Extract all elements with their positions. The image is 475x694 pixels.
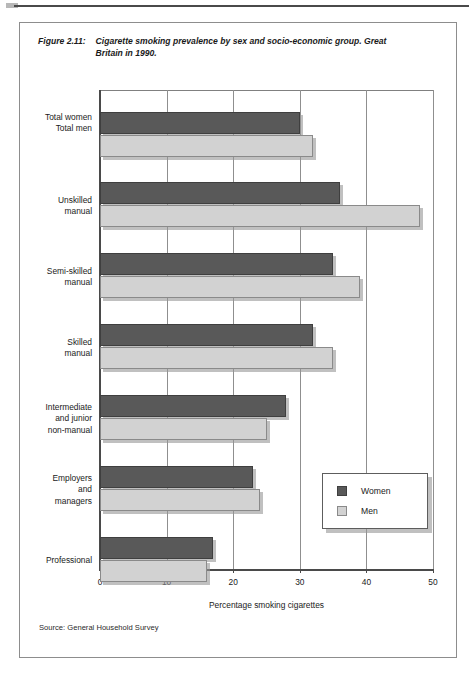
category-label: Employers and managers [0, 473, 92, 507]
plot-top-border [100, 90, 433, 91]
bar-rect-women [100, 182, 340, 204]
bar-men [100, 135, 313, 157]
bar-women [100, 324, 313, 346]
x-axis-title: Percentage smoking cigarettes [100, 600, 433, 610]
bar-rect-men [100, 276, 360, 298]
bar-men [100, 489, 260, 511]
category-label: Total women Total men [0, 112, 92, 135]
category-label: Unskilled manual [0, 195, 92, 218]
bar-rect-women [100, 537, 213, 559]
bar-rect-women [100, 324, 313, 346]
tick-50 [433, 569, 434, 573]
legend-label-women: Women [361, 486, 390, 496]
bar-men [100, 418, 267, 440]
bar-group: Semi-skilled manual [100, 253, 433, 301]
bar-women [100, 253, 333, 275]
bar-group: Intermediate and junior non-manual [100, 395, 433, 443]
chart-legend: Women Men [322, 473, 428, 529]
figure-page: Figure 2.11: Cigarette smoking prevalenc… [0, 0, 475, 694]
figure-title: Cigarette smoking prevalence by sex and … [96, 35, 396, 60]
legend-label-men: Men [361, 506, 378, 516]
legend-item-men: Men [337, 506, 378, 516]
bar-rect-men [100, 135, 313, 157]
category-label: Semi-skilled manual [0, 266, 92, 289]
category-label: Professional [0, 555, 92, 566]
bar-group: Total women Total men [100, 112, 433, 160]
bar-rect-men [100, 560, 207, 582]
gridline-50 [433, 90, 434, 569]
source-note: Source: General Household Survey [39, 623, 158, 632]
bar-men [100, 205, 420, 227]
bar-rect-women [100, 466, 253, 488]
category-label: Skilled manual [0, 337, 92, 360]
bar-women [100, 466, 253, 488]
bar-women [100, 182, 340, 204]
figure-number: Figure 2.11: [38, 35, 86, 60]
bar-group: Professional [100, 537, 433, 585]
chart-plot-area: 01020304050 Total women Total menUnskill… [100, 90, 433, 569]
bar-rect-men [100, 205, 420, 227]
bar-men [100, 560, 207, 582]
bar-group: Unskilled manual [100, 182, 433, 230]
women-swatch-icon [337, 486, 347, 496]
bar-women [100, 395, 286, 417]
page-header-rule [14, 5, 469, 7]
bar-men [100, 276, 360, 298]
bar-rect-women [100, 253, 333, 275]
bar-rect-men [100, 347, 333, 369]
figure-frame: Figure 2.11: Cigarette smoking prevalenc… [19, 22, 457, 658]
bar-rect-men [100, 418, 267, 440]
figure-caption: Figure 2.11: Cigarette smoking prevalenc… [38, 35, 438, 60]
legend-item-women: Women [337, 486, 390, 496]
bar-rect-women [100, 112, 300, 134]
category-label: Intermediate and junior non-manual [0, 402, 92, 436]
men-swatch-icon [337, 506, 347, 516]
bar-women [100, 112, 300, 134]
bar-group: Skilled manual [100, 324, 433, 372]
bar-men [100, 347, 333, 369]
bar-rect-women [100, 395, 286, 417]
bar-rect-men [100, 489, 260, 511]
bar-women [100, 537, 213, 559]
